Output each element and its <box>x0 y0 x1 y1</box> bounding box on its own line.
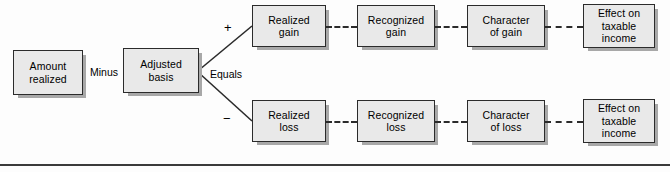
connector-recognized-to-character-loss <box>435 121 467 123</box>
minus-sign: − <box>223 112 231 125</box>
diagram-canvas: Amount realized Minus Adjusted basis Equ… <box>0 0 670 172</box>
bottom-divider-rule <box>0 164 670 166</box>
node-amount-realized: Amount realized <box>13 50 83 95</box>
operator-minus-label: Minus <box>90 66 118 78</box>
node-recognized-gain: Recognized gain <box>357 5 435 47</box>
node-adjusted-basis: Adjusted basis <box>123 48 199 93</box>
node-realized-loss: Realized loss <box>252 100 326 142</box>
node-realized-gain: Realized gain <box>252 5 326 47</box>
node-character-of-loss: Character of loss <box>467 100 545 142</box>
node-effect-taxable-income-loss: Effect on taxable income <box>583 99 655 143</box>
node-recognized-loss: Recognized loss <box>357 100 435 142</box>
connector-character-to-effect-loss <box>545 121 583 123</box>
node-effect-taxable-income-gain: Effect on taxable income <box>583 4 655 48</box>
plus-sign: + <box>224 21 232 34</box>
node-character-of-gain: Character of gain <box>467 5 545 47</box>
operator-equals-label: Equals <box>210 68 242 80</box>
connector-realized-to-recognized-gain <box>326 26 357 28</box>
connector-character-to-effect-gain <box>545 26 583 28</box>
connector-realized-to-recognized-loss <box>326 121 357 123</box>
connector-recognized-to-character-gain <box>435 26 467 28</box>
